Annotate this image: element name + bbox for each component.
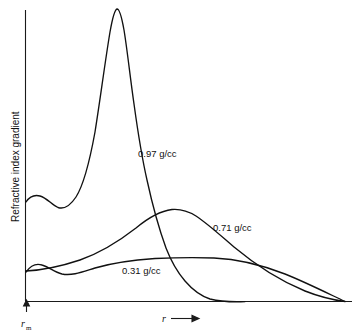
origin-label-rm: r m [21, 318, 32, 332]
annotation-0-97: 0.97 g/cc [138, 148, 177, 159]
annotation-0-31: 0.31 g/cc [122, 265, 161, 276]
curve-0-71 [26, 209, 345, 301]
curve-0-31 [26, 258, 345, 302]
origin-label-r: r [21, 318, 25, 329]
annotation-0-71: 0.71 g/cc [213, 222, 252, 233]
y-axis-label: Refractive index gradient [10, 111, 21, 222]
x-axis-label-r: r [162, 313, 166, 324]
x-axis-label-group: r [162, 313, 199, 324]
chart-canvas: 0.97 g/cc 0.71 g/cc 0.31 g/cc Refractive… [0, 0, 360, 335]
x-axis-arrow-head-icon [192, 315, 199, 321]
refractive-index-gradient-figure: 0.97 g/cc 0.71 g/cc 0.31 g/cc Refractive… [0, 0, 360, 335]
origin-label-subscript-m: m [26, 324, 32, 332]
